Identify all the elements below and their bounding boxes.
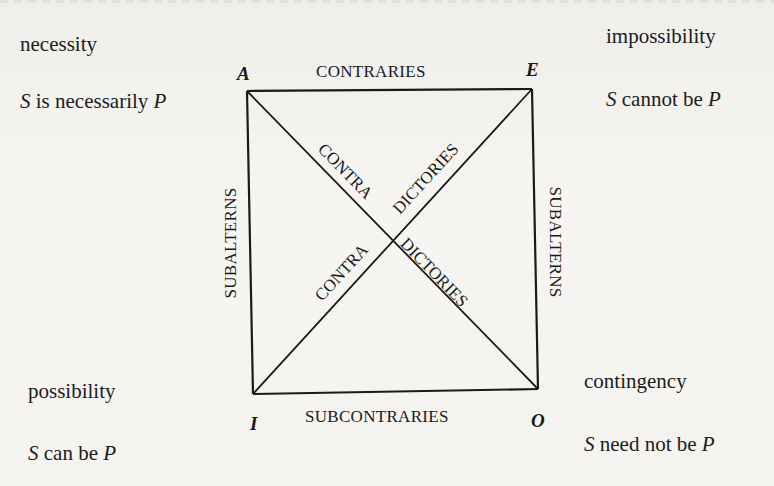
formula-impossibility: S cannot be P	[606, 89, 721, 110]
formula-possibility: S can be P	[28, 443, 116, 464]
corner-letter-a: A	[237, 64, 250, 83]
modality-necessity: necessity	[20, 34, 97, 55]
label-subalterns-right: SUBALTERNS	[547, 186, 564, 297]
modality-impossibility: impossibility	[606, 26, 716, 47]
copula: is necessarily	[31, 89, 154, 113]
diagonal-i-e	[253, 89, 532, 394]
label-contradictories-ao-lower: DICTORIES	[397, 234, 472, 311]
predicate-var: P	[708, 87, 721, 111]
label-contradictories-ao-upper: CONTRA	[314, 140, 377, 204]
subject-var: S	[28, 441, 39, 465]
modality-contingency: contingency	[584, 371, 687, 392]
label-contraries: CONTRARIES	[316, 63, 426, 80]
edge-subalterns-right	[532, 89, 538, 389]
copula: need not be	[595, 432, 702, 456]
predicate-var: P	[103, 441, 116, 465]
diagonal-a-o	[247, 91, 538, 389]
corner-letter-i: I	[250, 414, 257, 433]
edge-subcontraries	[253, 389, 538, 394]
copula: cannot be	[617, 87, 709, 111]
edge-contraries	[247, 89, 532, 91]
edge-subalterns-left	[247, 91, 253, 394]
formula-contingency: S need not be P	[584, 434, 715, 455]
predicate-var: P	[702, 432, 715, 456]
label-subcontraries: SUBCONTRARIES	[305, 408, 449, 425]
subject-var: S	[606, 87, 617, 111]
corner-letter-o: O	[531, 411, 545, 430]
modality-possibility: possibility	[28, 381, 116, 402]
subject-var: S	[584, 432, 595, 456]
book-page: CONTRA DICTORIES DICTORIES CONTRA A E I …	[0, 0, 774, 486]
label-subalterns-left: SUBALTERNS	[222, 187, 239, 298]
predicate-var: P	[154, 89, 167, 113]
corner-letter-e: E	[526, 60, 539, 79]
copula: can be	[39, 441, 104, 465]
subject-var: S	[20, 89, 31, 113]
formula-necessity: S is necessarily P	[20, 91, 166, 112]
